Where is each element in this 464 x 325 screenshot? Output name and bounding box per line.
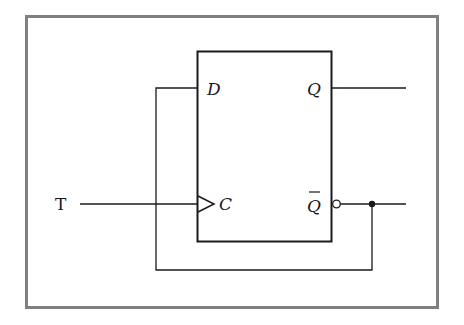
toggle-flipflop-diagram: T D C Q Q: [0, 0, 464, 325]
clock-edge-triangle-icon: [198, 196, 214, 212]
feedback-wire: [156, 88, 372, 270]
d-pin-label: D: [206, 79, 221, 99]
junction-dot-icon: [369, 201, 375, 207]
q-pin-label: Q: [307, 79, 321, 99]
t-input-label: T: [55, 194, 67, 214]
clock-pin-label: C: [219, 194, 232, 214]
qbar-pin-label: Q: [307, 196, 321, 216]
inversion-bubble-icon: [333, 200, 341, 208]
outer-frame: [27, 17, 438, 308]
